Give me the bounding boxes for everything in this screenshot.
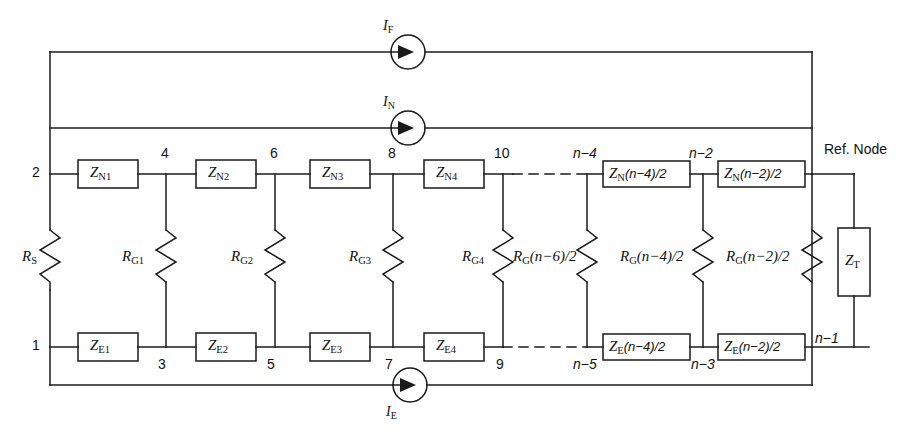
label-rg-n4: RG(n−4)/2 <box>620 248 684 266</box>
node-n-minus-5: n−5 <box>573 356 597 372</box>
label-rg3: RG3 <box>349 248 371 266</box>
in-arrowhead <box>398 121 414 135</box>
node-4: 4 <box>161 145 169 161</box>
in-source-label: IN <box>383 94 395 111</box>
label-zn4: ZN4 <box>436 164 457 182</box>
node-9: 9 <box>496 356 504 372</box>
node-5: 5 <box>267 356 275 372</box>
node-1: 1 <box>32 337 40 353</box>
label-zn-n2: ZN(n−2)/2 <box>724 165 782 183</box>
label-ze2: ZE2 <box>208 337 228 355</box>
node-3: 3 <box>158 356 166 372</box>
label-rs: RS <box>22 248 37 266</box>
node-n-minus-2: n−2 <box>689 145 713 161</box>
label-zn1: ZN1 <box>90 164 111 182</box>
resistor-rg-n4 <box>693 230 713 282</box>
label-zt: ZT <box>845 252 860 270</box>
node-n-minus-4: n−4 <box>573 145 597 161</box>
label-ze-n4: ZE(n−4)/2 <box>609 338 665 356</box>
label-rg1: RG1 <box>122 248 144 266</box>
node-7: 7 <box>385 356 393 372</box>
label-ze1: ZE1 <box>90 337 110 355</box>
resistor-rg2 <box>265 230 285 282</box>
node-8: 8 <box>388 145 396 161</box>
node-2: 2 <box>32 164 40 180</box>
label-ze3: ZE3 <box>322 337 342 355</box>
label-rg-n6: RG(n−6)/2 <box>513 248 577 266</box>
if-source-label: IF <box>383 18 393 35</box>
node-6: 6 <box>270 145 278 161</box>
ie-source-label: IE <box>386 404 397 421</box>
resistor-rg3 <box>383 230 403 282</box>
label-zn3: ZN3 <box>322 164 343 182</box>
label-ze-n2: ZE(n−2)/2 <box>724 338 780 356</box>
if-arrowhead <box>398 45 414 59</box>
resistor-rg-n6 <box>577 230 597 282</box>
label-ze4: ZE4 <box>436 337 456 355</box>
resistor-rg4 <box>493 230 513 282</box>
node-n-minus-3: n−3 <box>691 356 715 372</box>
label-rg2: RG2 <box>231 248 253 266</box>
circuit-schematic-svg <box>0 0 912 446</box>
ref-node-label: Ref. Node <box>824 141 887 157</box>
resistor-rs <box>40 230 60 290</box>
circuit-diagram-canvas: IF IN IE Ref. Node ZN1 ZN2 ZN3 ZN4 ZN(n−… <box>0 0 912 446</box>
resistor-rg1 <box>156 230 176 282</box>
label-zn-n4: ZN(n−4)/2 <box>609 165 667 183</box>
label-zn2: ZN2 <box>208 164 229 182</box>
label-rg4: RG4 <box>462 248 484 266</box>
node-10: 10 <box>494 145 510 161</box>
ie-arrowhead <box>400 378 416 392</box>
node-n-minus-1: n−1 <box>815 330 839 346</box>
label-rg-n2: RG(n−2)/2 <box>726 248 790 266</box>
